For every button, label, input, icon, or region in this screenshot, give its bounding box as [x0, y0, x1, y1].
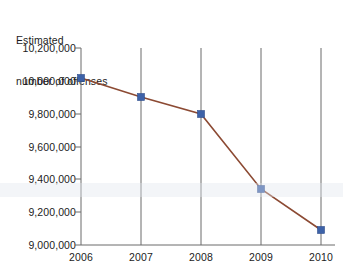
x-tick-label-2008: 2008 — [171, 252, 231, 263]
x-tick-label-2010: 2010 — [291, 252, 343, 263]
x-tick-label-2009: 2009 — [231, 252, 291, 263]
line-chart: Estimated number of offenses 10,200,000 … — [0, 0, 343, 277]
x-tick-label-2007: 2007 — [111, 252, 171, 263]
x-axis-tick-labels: 2006 2007 2008 2009 2010 — [0, 0, 343, 277]
x-tick-label-2006: 2006 — [51, 252, 111, 263]
